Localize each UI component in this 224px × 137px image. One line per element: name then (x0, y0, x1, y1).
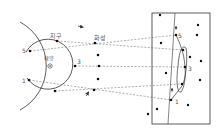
sky-point-2 (181, 83, 184, 86)
sky-label-1: 1 (175, 98, 179, 105)
mars-orbit (20, 22, 46, 110)
earth-label-5: 5 (22, 47, 26, 54)
star-icon (159, 14, 161, 16)
star-icon (165, 72, 167, 74)
earth-point-4 (56, 40, 59, 43)
retrograde-motion-diagram: 지구 화성 태양 5 3 1 5 3 1 (0, 0, 224, 137)
sky-point-5 (175, 34, 178, 37)
star-icon (196, 34, 198, 36)
earth-label-1: 1 (22, 77, 26, 84)
sky-point-1 (170, 99, 173, 102)
mars-point-3 (98, 65, 101, 68)
star-icon (160, 42, 162, 44)
earth-point-1 (28, 79, 31, 82)
mars-label: 화성 (94, 34, 106, 42)
mars-orbit-arrow-top (78, 26, 82, 27)
mars-point-4 (97, 54, 100, 57)
star-icon (199, 79, 201, 81)
mars-orbit-arrow-bottom (86, 93, 88, 96)
sun-label: 태양 (44, 55, 54, 62)
mars-point-2 (97, 78, 100, 81)
sight-line-4 (57, 41, 183, 50)
star-icon (187, 104, 189, 106)
sun-icon (48, 64, 52, 68)
star-icon (147, 113, 149, 115)
sky-reference-line (168, 13, 175, 124)
star-icon (156, 108, 158, 110)
sky-label-5: 5 (178, 32, 182, 39)
mars-point-5 (94, 42, 97, 45)
sight-line-3 (75, 66, 185, 67)
star-icon (189, 56, 191, 58)
star-icon (200, 60, 202, 62)
sky-point-3 (184, 66, 187, 69)
sight-line-1 (29, 80, 171, 100)
sky-point-4 (182, 49, 185, 52)
earth-label-3: 3 (77, 58, 81, 65)
earth-label: 지구 (50, 32, 62, 40)
star-icon (197, 24, 199, 26)
earth-point-3 (74, 65, 77, 68)
earth-point-2 (54, 90, 57, 93)
sight-lines (29, 35, 185, 100)
sight-line-2 (55, 84, 182, 91)
sky-background-box (152, 13, 210, 124)
earth-point-5 (29, 50, 32, 53)
sky-label-3: 3 (188, 65, 192, 72)
mars-point-1 (93, 89, 96, 92)
mars-positions (93, 42, 101, 92)
